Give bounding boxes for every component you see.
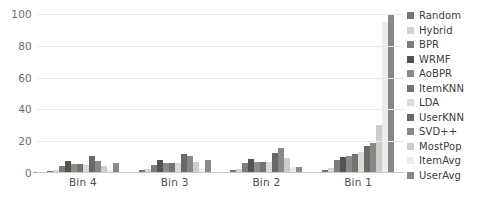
y-axis-tick-label: 80 xyxy=(18,40,32,52)
legend-item-itemavg[interactable]: ItemAvg xyxy=(407,154,481,168)
legend: RandomHybridBPRWRMFAoBPRItemKNNLDAUserKN… xyxy=(407,9,481,182)
plot-area xyxy=(37,14,404,173)
bar xyxy=(205,160,211,174)
bar-chart: 020406080100 Bin 4Bin 3Bin 2Bin 1 Random… xyxy=(0,0,481,206)
legend-item-label: LDA xyxy=(419,97,439,108)
legend-item-label: UserAvg xyxy=(419,170,461,181)
legend-item-mostpop[interactable]: MostPop xyxy=(407,140,481,154)
x-axis-labels: Bin 4Bin 3Bin 2Bin 1 xyxy=(37,176,404,194)
legend-item-bpr[interactable]: BPR xyxy=(407,38,481,52)
legend-item-wrmf[interactable]: WRMF xyxy=(407,53,481,67)
y-axis-tick-label: 40 xyxy=(18,103,32,115)
legend-swatch-icon xyxy=(407,128,414,135)
legend-swatch-icon xyxy=(407,143,414,150)
x-axis-tick-label: Bin 2 xyxy=(221,176,313,194)
gridline xyxy=(37,109,404,110)
legend-item-label: Hybrid xyxy=(419,25,453,36)
legend-item-label: MostPop xyxy=(419,141,462,152)
y-axis-tick-label: 0 xyxy=(25,167,32,179)
legend-item-label: Random xyxy=(419,10,461,21)
x-axis-tick-label: Bin 1 xyxy=(312,176,404,194)
legend-swatch-icon xyxy=(407,157,414,164)
legend-item-userknn[interactable]: UserKNN xyxy=(407,111,481,125)
legend-swatch-icon xyxy=(407,85,414,92)
gridline xyxy=(37,141,404,142)
bar xyxy=(388,14,394,173)
legend-item-hybrid[interactable]: Hybrid xyxy=(407,24,481,38)
legend-item-svdplusplus[interactable]: SVD++ xyxy=(407,125,481,139)
legend-swatch-icon xyxy=(407,41,414,48)
bar-groups xyxy=(37,14,404,173)
bar-group xyxy=(312,14,404,173)
legend-item-label: BPR xyxy=(419,39,439,50)
x-axis-line xyxy=(37,172,404,173)
y-axis-tick-label: 60 xyxy=(18,72,32,84)
legend-item-label: WRMF xyxy=(419,54,451,65)
legend-item-label: ItemKNN xyxy=(419,83,464,94)
gridline xyxy=(37,46,404,47)
bar-group-bars xyxy=(312,14,404,173)
bar-group-bars xyxy=(129,14,221,173)
legend-swatch-icon xyxy=(407,70,414,77)
legend-item-useravg[interactable]: UserAvg xyxy=(407,169,481,183)
legend-item-aobpr[interactable]: AoBPR xyxy=(407,67,481,81)
x-axis-tick-label: Bin 4 xyxy=(37,176,129,194)
bar-group xyxy=(129,14,221,173)
legend-swatch-icon xyxy=(407,56,414,63)
legend-item-label: SVD++ xyxy=(419,126,457,137)
x-axis-tick-label: Bin 3 xyxy=(129,176,221,194)
bar-group xyxy=(221,14,313,173)
gridline xyxy=(37,14,404,15)
bar-group-bars xyxy=(221,14,313,173)
legend-item-random[interactable]: Random xyxy=(407,9,481,23)
legend-swatch-icon xyxy=(407,12,414,19)
legend-swatch-icon xyxy=(407,172,414,179)
legend-swatch-icon xyxy=(407,114,414,121)
legend-item-label: ItemAvg xyxy=(419,155,461,166)
legend-item-itemknn[interactable]: ItemKNN xyxy=(407,82,481,96)
gridline xyxy=(37,78,404,79)
y-axis-tick-label: 100 xyxy=(11,8,32,20)
legend-item-lda[interactable]: LDA xyxy=(407,96,481,110)
y-axis-tick-label: 20 xyxy=(18,135,32,147)
legend-item-label: AoBPR xyxy=(419,68,452,79)
legend-swatch-icon xyxy=(407,99,414,106)
y-axis: 020406080100 xyxy=(0,14,32,173)
legend-item-label: UserKNN xyxy=(419,112,464,123)
legend-swatch-icon xyxy=(407,27,414,34)
bar-group xyxy=(37,14,129,173)
bar-group-bars xyxy=(37,14,129,173)
